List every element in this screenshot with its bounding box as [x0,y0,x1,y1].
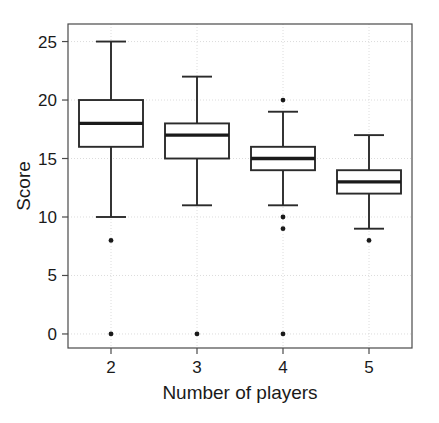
x-axis-ticks: 2345 [106,348,373,377]
box-rect [165,123,229,158]
y-tick-label: 15 [38,150,57,169]
outlier-point [281,215,286,220]
boxplot-group-3 [165,77,229,206]
boxplot-group-4 [251,112,315,206]
boxplot-group-5 [337,135,401,229]
outlier-point [281,98,286,103]
boxplot-svg: 0510152025 2345 Score Number of players [0,0,439,423]
x-tick-label: 2 [106,358,115,377]
y-axis-title: Score [13,161,34,211]
boxplot-group-2 [79,42,143,217]
y-tick-label: 5 [48,266,57,285]
x-tick-label: 4 [278,358,287,377]
outlier-point [195,332,200,337]
outlier-point [367,238,372,243]
boxes-layer [79,42,401,229]
x-axis-title: Number of players [162,382,317,403]
y-tick-label: 25 [38,33,57,52]
y-axis-ticks: 0510152025 [38,33,68,344]
outlier-point [281,226,286,231]
y-tick-label: 10 [38,208,57,227]
x-tick-label: 5 [364,358,373,377]
outlier-point [281,332,286,337]
outlier-point [109,238,114,243]
outlier-point [109,332,114,337]
x-tick-label: 3 [192,358,201,377]
y-tick-label: 0 [48,325,57,344]
boxplot-chart: 0510152025 2345 Score Number of players [0,0,439,423]
y-tick-label: 20 [38,91,57,110]
